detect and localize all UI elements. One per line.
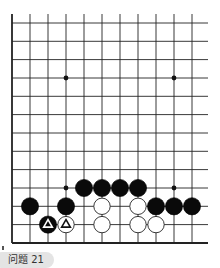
black-stone bbox=[93, 179, 110, 196]
white-stone bbox=[130, 198, 146, 214]
black-stone bbox=[165, 198, 182, 215]
black-stone bbox=[147, 198, 164, 215]
white-stone bbox=[130, 216, 146, 232]
star-point bbox=[64, 76, 69, 81]
white-stone bbox=[148, 216, 164, 232]
white-stone bbox=[94, 216, 110, 232]
problem-caption: 问题 21 bbox=[0, 252, 54, 268]
star-point bbox=[172, 186, 177, 191]
black-stone bbox=[21, 198, 38, 215]
black-stone bbox=[57, 198, 74, 215]
star-point bbox=[172, 76, 177, 81]
star-point bbox=[64, 186, 69, 191]
problem-caption-text: 问题 21 bbox=[8, 254, 44, 265]
black-stone bbox=[75, 179, 92, 196]
white-stone bbox=[94, 198, 110, 214]
black-stone bbox=[39, 216, 56, 233]
black-stone bbox=[183, 198, 200, 215]
black-stone bbox=[129, 179, 146, 196]
black-stone bbox=[111, 179, 128, 196]
caption-tick bbox=[2, 246, 4, 250]
white-stone bbox=[58, 216, 74, 232]
